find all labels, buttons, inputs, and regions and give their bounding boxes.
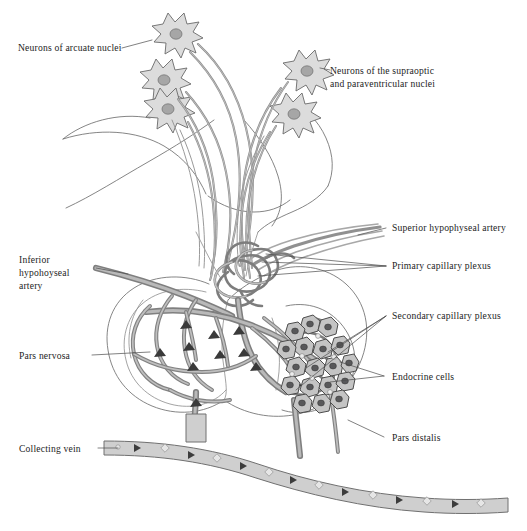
label-inferior-artery-line2: hypohoyseal bbox=[19, 267, 70, 278]
label-neurons-supraoptic-line2: and paraventricular nuclei bbox=[330, 78, 435, 89]
neuron-nucleus bbox=[162, 104, 174, 114]
label-endocrine-cells: Endocrine cells bbox=[392, 371, 454, 382]
label-pars-nervosa: Pars nervosa bbox=[19, 350, 71, 361]
label-primary-capillary-plexus: Primary capillary plexus bbox=[392, 260, 491, 271]
neuron-nucleus bbox=[158, 75, 170, 85]
label-inferior-artery-line1: Inferior bbox=[19, 254, 50, 265]
label-superior-hypophyseal-artery: Superior hypophyseal artery bbox=[392, 222, 506, 233]
label-collecting-vein: Collecting vein bbox=[19, 443, 81, 454]
label-secondary-capillary-plexus: Secondary capillary plexus bbox=[392, 310, 501, 321]
label-inferior-artery-line3: artery bbox=[19, 280, 43, 291]
label-neurons-arcuate: Neurons of arcuate nuclei bbox=[18, 42, 122, 53]
diagram-canvas: Neurons of arcuate nuclei Neurons of the… bbox=[0, 0, 527, 531]
label-pars-distalis: Pars distalis bbox=[392, 432, 441, 443]
neuron-nucleus bbox=[301, 66, 313, 76]
label-neurons-supraoptic-line1: Neurons of the supraoptic bbox=[330, 65, 434, 76]
neuron-nucleus bbox=[170, 29, 182, 39]
neuron-nucleus bbox=[288, 109, 300, 119]
hypophyseal-portal-diagram: Neurons of arcuate nuclei Neurons of the… bbox=[0, 0, 527, 531]
